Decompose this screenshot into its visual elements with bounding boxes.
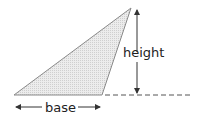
height-label: height [123,45,164,60]
triangle-shape [14,8,131,95]
triangle-diagram: height base [0,0,197,118]
base-label: base [45,100,76,115]
